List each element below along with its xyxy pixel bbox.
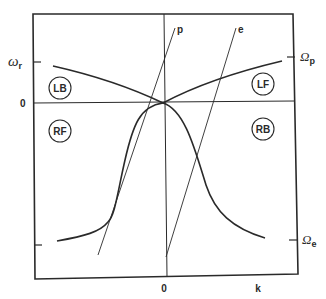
e-line-label: e: [238, 24, 244, 35]
y-zero-label: 0: [20, 98, 26, 109]
region-lb: LB: [49, 77, 71, 99]
region-rb-label: RB: [256, 124, 270, 135]
region-rb: RB: [252, 118, 274, 140]
dispersion-diagram: LB RF LF RB p e 0 0 k ωr Ωp Ωe: [0, 0, 326, 299]
p-line-label: p: [177, 24, 183, 35]
x-axis-label: k: [255, 283, 261, 294]
e-line: [166, 28, 236, 257]
region-lf-label: LF: [257, 79, 269, 90]
region-rf-label: RF: [53, 126, 66, 137]
omega-r-label: ωr: [8, 53, 23, 71]
lb-curve: [53, 66, 163, 103]
region-lf: LF: [252, 73, 274, 95]
omega-e-label: Ωe: [302, 232, 316, 249]
omega-p-label: Ωp: [300, 49, 315, 66]
region-lb-label: LB: [53, 83, 66, 94]
x-zero-label: 0: [161, 283, 167, 294]
rf-curve: [57, 103, 163, 241]
region-rf: RF: [49, 120, 71, 142]
